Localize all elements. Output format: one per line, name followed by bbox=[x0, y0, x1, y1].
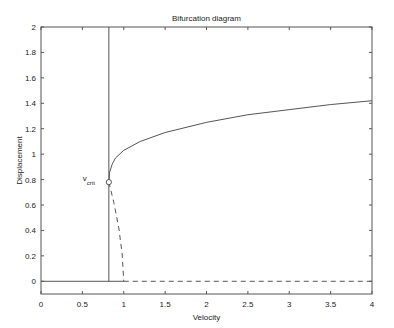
plot-frame bbox=[41, 27, 372, 294]
y-tick-label: 0 bbox=[32, 277, 37, 286]
series-line bbox=[109, 101, 372, 182]
annotation-vcrit: vcrit bbox=[83, 174, 95, 186]
y-tick-label: 0.6 bbox=[25, 201, 37, 210]
y-tick-label: 1.6 bbox=[25, 74, 37, 83]
y-tick-label: 1 bbox=[32, 150, 37, 159]
chart-title: Bifurcation diagram bbox=[172, 14, 241, 23]
chart-container: 00.511.522.533.5400.20.40.60.811.21.41.6… bbox=[0, 0, 394, 328]
x-tick-label: 0 bbox=[39, 300, 44, 309]
x-tick-label: 1.5 bbox=[160, 300, 172, 309]
y-tick-label: 2 bbox=[32, 23, 37, 32]
series-line bbox=[109, 182, 124, 281]
y-tick-label: 1.4 bbox=[25, 99, 37, 108]
x-axis-label: Velocity bbox=[193, 313, 221, 322]
x-tick-label: 2.5 bbox=[242, 300, 254, 309]
x-tick-label: 0.5 bbox=[77, 300, 89, 309]
y-tick-label: 0.8 bbox=[25, 176, 37, 185]
x-tick-label: 2 bbox=[204, 300, 209, 309]
x-tick-label: 3 bbox=[287, 300, 292, 309]
x-tick-label: 4 bbox=[370, 300, 375, 309]
x-tick-label: 3.5 bbox=[325, 300, 337, 309]
y-tick-label: 1.8 bbox=[25, 48, 37, 57]
y-tick-label: 0.2 bbox=[25, 252, 37, 261]
x-tick-label: 1 bbox=[122, 300, 127, 309]
bifurcation-chart: 00.511.522.533.5400.20.40.60.811.21.41.6… bbox=[0, 0, 394, 328]
critical-point-marker bbox=[106, 180, 111, 185]
y-axis-label: Displacement bbox=[15, 135, 24, 184]
y-tick-label: 0.4 bbox=[25, 226, 37, 235]
y-tick-label: 1.2 bbox=[25, 125, 37, 134]
